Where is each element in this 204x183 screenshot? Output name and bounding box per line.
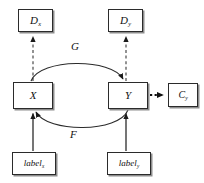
node-label-x[interactable]: labelx xyxy=(12,152,56,175)
node-domain-x[interactable]: X xyxy=(13,82,53,109)
node-domain-y-label: Y xyxy=(125,90,131,101)
node-discriminator-x[interactable]: Dx xyxy=(18,9,53,32)
node-label-y[interactable]: labely xyxy=(107,152,151,175)
node-discriminator-y[interactable]: Dy xyxy=(108,9,143,32)
node-label-x-label: labelx xyxy=(24,159,44,168)
node-discriminator-x-label: Dx xyxy=(30,15,41,26)
edge-label-f: F xyxy=(70,128,77,140)
node-domain-x-label: X xyxy=(30,90,37,101)
node-classifier-y[interactable]: Cy xyxy=(168,83,198,107)
node-domain-y[interactable]: Y xyxy=(108,82,148,109)
node-label-y-label: labely xyxy=(119,159,139,168)
edge-generator-g xyxy=(31,63,123,81)
node-classifier-y-label: Cy xyxy=(178,90,187,100)
diagram-canvas: Dx Dy X Y Cy labelx labely G F xyxy=(0,0,204,183)
edge-label-g: G xyxy=(71,40,79,52)
node-discriminator-y-label: Dy xyxy=(120,15,131,26)
edge-generator-f xyxy=(36,110,128,128)
